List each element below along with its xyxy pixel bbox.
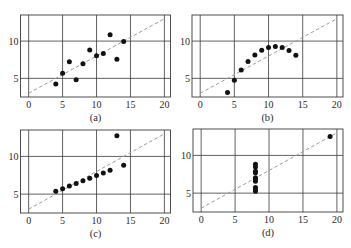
data-point <box>266 45 271 50</box>
y-tick-label: 10 <box>181 150 191 161</box>
data-point <box>94 53 99 58</box>
x-tick-label: 15 <box>125 215 135 226</box>
data-point <box>60 71 65 76</box>
data-point <box>253 169 258 174</box>
data-point <box>114 133 119 138</box>
data-point <box>53 189 58 194</box>
data-point <box>328 134 333 139</box>
panel-label: (b) <box>261 112 274 124</box>
data-point <box>114 57 119 62</box>
y-tick-label: 10 <box>180 36 190 47</box>
data-point <box>253 186 258 191</box>
data-point <box>232 78 237 83</box>
data-point <box>87 47 92 52</box>
data-point <box>80 178 85 183</box>
data-point <box>293 53 298 58</box>
plot-frame <box>21 130 171 213</box>
x-tick-label: 20 <box>159 215 169 226</box>
data-point <box>67 59 72 64</box>
data-point <box>253 176 258 181</box>
data-point <box>67 183 72 188</box>
x-tick-label: 0 <box>26 215 31 226</box>
x-tick-label: 5 <box>233 214 238 225</box>
data-point <box>94 173 99 178</box>
panel-a: 05101520510(a) <box>9 15 171 124</box>
y-tick-label: 5 <box>186 188 191 199</box>
data-point <box>121 163 126 168</box>
panel-label: (d) <box>262 227 275 239</box>
plot-frame <box>192 15 343 97</box>
x-tick-label: 0 <box>198 99 203 110</box>
data-point <box>101 51 106 56</box>
x-tick-label: 10 <box>264 99 274 110</box>
y-tick-label: 10 <box>9 36 19 47</box>
x-tick-label: 20 <box>159 99 169 110</box>
data-point <box>121 39 126 44</box>
panel-label: (c) <box>90 228 102 240</box>
y-tick-label: 5 <box>185 73 190 84</box>
data-point <box>60 186 65 191</box>
data-point <box>280 45 285 50</box>
x-tick-label: 20 <box>332 99 342 110</box>
plot-frame <box>193 129 343 212</box>
x-tick-label: 20 <box>332 214 342 225</box>
data-point <box>80 61 85 66</box>
x-tick-label: 10 <box>92 215 102 226</box>
x-tick-label: 0 <box>199 214 204 225</box>
data-point <box>101 170 106 175</box>
data-point <box>246 59 251 64</box>
data-point <box>225 90 230 95</box>
x-tick-label: 5 <box>60 99 65 110</box>
x-tick-label: 10 <box>264 214 274 225</box>
x-tick-label: 5 <box>60 215 65 226</box>
anscombe-quartet-figure: 05101520510(a) 05101520510(b) 0510152051… <box>0 0 351 248</box>
data-point <box>273 44 278 49</box>
data-point <box>87 176 92 181</box>
panel-c: 05101520510(c) <box>9 130 171 240</box>
panel-label: (a) <box>90 112 102 124</box>
y-tick-label: 10 <box>9 151 19 162</box>
panel-b: 05101520510(b) <box>180 15 343 124</box>
data-point <box>259 48 264 53</box>
data-point <box>108 168 113 173</box>
data-point <box>53 81 58 86</box>
x-tick-label: 15 <box>125 99 135 110</box>
data-point <box>239 67 244 72</box>
data-point <box>252 52 257 57</box>
x-tick-label: 0 <box>26 99 31 110</box>
y-tick-label: 5 <box>14 189 19 200</box>
data-point <box>74 181 79 186</box>
y-tick-label: 5 <box>14 73 19 84</box>
x-tick-label: 15 <box>298 214 308 225</box>
data-point <box>74 77 79 82</box>
x-tick-label: 10 <box>92 99 102 110</box>
x-tick-label: 5 <box>232 99 237 110</box>
data-point <box>108 32 113 37</box>
x-tick-label: 15 <box>298 99 308 110</box>
panel-d: 05101520510(d) <box>181 129 343 239</box>
data-point <box>287 48 292 53</box>
